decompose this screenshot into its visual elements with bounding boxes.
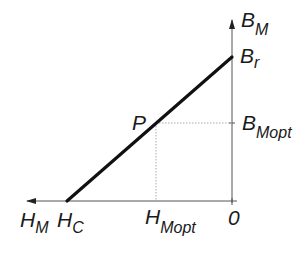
p-label: P bbox=[132, 111, 146, 134]
hopt-label: HMopt bbox=[145, 205, 196, 236]
demag-line bbox=[67, 57, 232, 201]
bopt-label: BMopt bbox=[242, 111, 292, 141]
b-axis-label: BM bbox=[241, 8, 269, 38]
hc-label: HC bbox=[57, 208, 84, 236]
h-axis-label: HM bbox=[20, 208, 49, 236]
origin-label: 0 bbox=[228, 206, 240, 229]
demagnetization-diagram: BM Br P BMopt HM HC HMopt 0 bbox=[0, 0, 307, 258]
br-label: Br bbox=[240, 44, 260, 71]
